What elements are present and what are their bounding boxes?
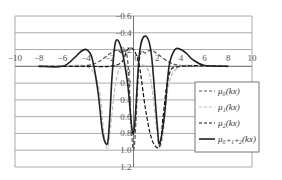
- y-tick-label: −0.4: [115, 28, 132, 38]
- y-tick-label: 1.0: [120, 145, 132, 155]
- x-tick-label: −10: [8, 53, 23, 63]
- legend-label: μ₀(kx): [217, 86, 240, 96]
- x-tick-label: −8: [34, 53, 44, 63]
- x-tick-label: −4: [81, 53, 91, 63]
- y-tick-label: 1.2: [120, 162, 131, 172]
- legend-label: μ₂(kx): [217, 118, 240, 128]
- x-tick-labels: −10−8−6−4−20246810: [8, 53, 257, 63]
- y-tick-label: 0.8: [120, 128, 132, 138]
- x-tick-label: 10: [248, 53, 258, 63]
- line-chart: −10−8−6−4−20246810 −0.6−0.4−0.200.20.40.…: [0, 0, 282, 180]
- x-tick-label: 6: [202, 53, 207, 63]
- legend-label: μ₁(kx): [217, 102, 240, 112]
- x-tick-label: −6: [58, 53, 68, 63]
- legend-label: μ₀₊₁₊₂(kx): [217, 134, 256, 144]
- legend: μ₀(kx)μ₁(kx)μ₂(kx)μ₀₊₁₊₂(kx): [195, 82, 259, 152]
- x-tick-label: 8: [226, 53, 231, 63]
- x-tick-label: 4: [179, 53, 184, 63]
- y-tick-label: −0.6: [115, 11, 132, 21]
